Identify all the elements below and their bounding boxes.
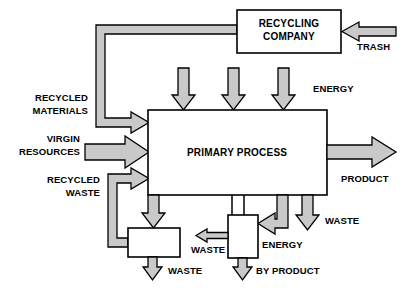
flowchart-canvas: RECYCLING COMPANY TRASH ENERGY RECYCLED … xyxy=(0,0,404,288)
flowchart-diagram: RECYCLING COMPANY TRASH ENERGY RECYCLED … xyxy=(0,0,404,288)
energy-arrow-1 xyxy=(172,68,195,110)
waste-middle-label: WASTE xyxy=(191,244,225,255)
waste-to-treatment-arrow xyxy=(142,195,165,228)
recycled-materials-label-line2: MATERIALS xyxy=(32,105,88,116)
energy-arrow-3 xyxy=(272,68,295,110)
energy-top-label: ENERGY xyxy=(313,83,354,94)
recycling-company-label-line1: RECYCLING xyxy=(259,18,320,29)
waste-right-label: WASTE xyxy=(325,215,359,226)
by-product-arrow xyxy=(233,258,252,280)
energy-feedback-arrow xyxy=(258,195,288,234)
virgin-resources-label-line1: VIRGIN xyxy=(47,133,80,144)
virgin-resources-arrow xyxy=(85,136,149,168)
virgin-resources-label-line2: RESOURCES xyxy=(19,146,80,157)
recycled-waste-label-line2: WASTE xyxy=(66,187,100,198)
waste-right-arrow xyxy=(296,195,319,230)
waste-treatment-box xyxy=(128,228,180,257)
product-arrow xyxy=(327,137,396,167)
by-product-label: BY PRODUCT xyxy=(256,265,320,276)
energy-arrow-2 xyxy=(222,68,245,110)
primary-process-label: PRIMARY PROCESS xyxy=(187,147,287,158)
recycled-materials-label-line1: RECYCLED xyxy=(35,92,88,103)
recycling-company-label-line2: COMPANY xyxy=(263,31,315,42)
energy-bottom-label: ENERGY xyxy=(262,239,303,250)
product-label: PRODUCT xyxy=(341,173,389,184)
trash-arrow xyxy=(342,22,396,41)
trash-label: TRASH xyxy=(357,41,390,52)
recycled-waste-label-line1: RECYCLED xyxy=(47,174,100,185)
energy-recovery-box xyxy=(228,215,258,258)
waste-bottom-left-arrow xyxy=(143,257,162,280)
waste-middle-arrow xyxy=(196,229,228,242)
waste-bottom-left-label: WASTE xyxy=(168,265,202,276)
